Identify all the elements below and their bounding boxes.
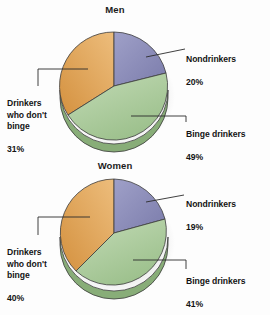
label-nondrinkers-value-women: 19%: [186, 222, 203, 232]
pie-chart-men: Men: [0, 0, 270, 157]
label-drinkers-no-binge-value-women: 40%: [7, 293, 24, 303]
label-binge-drinkers-name-women: Binge drinkers: [186, 276, 245, 286]
pie-chart-women: Women: [0, 157, 270, 314]
label-drinkers-no-binge-name-women: Drinkers who don't binge: [7, 247, 47, 280]
label-binge-drinkers-value-women: 41%: [186, 299, 203, 309]
label-drinkers-no-binge-name-men: Drinkers who don't binge: [7, 98, 47, 131]
label-drinkers-no-binge-men: Drinkers who don't binge 31%: [7, 87, 47, 155]
label-nondrinkers-men: Nondrinkers 20%: [186, 43, 236, 88]
label-binge-drinkers-women: Binge drinkers 41%: [186, 265, 245, 310]
label-nondrinkers-name-men: Nondrinkers: [186, 54, 236, 64]
label-nondrinkers-women: Nondrinkers 19%: [186, 188, 236, 233]
label-nondrinkers-value-men: 20%: [186, 77, 203, 87]
label-drinkers-no-binge-women: Drinkers who don't binge 40%: [7, 236, 47, 304]
label-nondrinkers-name-women: Nondrinkers: [186, 199, 236, 209]
label-binge-drinkers-name-men: Binge drinkers: [186, 129, 245, 139]
label-drinkers-no-binge-value-men: 31%: [7, 144, 24, 154]
